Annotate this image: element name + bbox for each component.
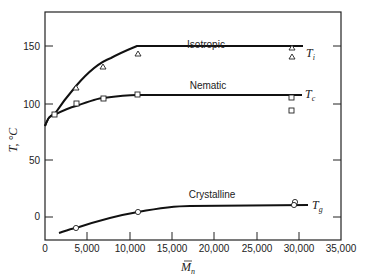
tg-curve — [59, 205, 308, 233]
tc-curve — [45, 95, 302, 126]
x-axis-title: Mn — [180, 260, 195, 276]
square-marker-icon — [135, 92, 140, 97]
isotropic-label: Isotropic — [187, 39, 225, 50]
y-tick-label: 150 — [23, 41, 40, 52]
x-tick-label: 5,000 — [74, 243, 99, 254]
nematic-label: Nematic — [190, 80, 227, 91]
y-tick-label: 0 — [34, 211, 40, 222]
crystalline-label: Crystalline — [189, 189, 236, 200]
square-marker-icon — [52, 112, 57, 117]
square-marker-icon — [289, 108, 294, 113]
x-tick-label: 25,000 — [242, 243, 273, 254]
x-tick-label: 20,000 — [199, 243, 230, 254]
x-tick-label: 0 — [42, 243, 48, 254]
triangle-marker-icon — [100, 64, 106, 69]
square-marker-icon — [101, 96, 106, 101]
tc-label: Tc — [305, 87, 316, 103]
x-tick-label: 15,000 — [157, 243, 188, 254]
y-axis-title: T, °C — [6, 127, 20, 153]
ti-markers — [73, 45, 295, 90]
circle-marker-icon — [291, 202, 296, 207]
tg-label: Tg — [312, 198, 323, 214]
x-ticks — [87, 232, 299, 240]
phase-diagram-chart: 0 50 100 150 0 5,000 10,000 15,000 20,00… — [0, 0, 368, 278]
x-tick-label: 10,000 — [115, 243, 146, 254]
square-marker-icon — [289, 95, 294, 100]
y-tick-label: 100 — [23, 99, 40, 110]
x-tick-label: 30,000 — [284, 243, 315, 254]
tg-markers — [73, 199, 297, 230]
ti-label: Ti — [306, 46, 315, 62]
y-tick-label: 50 — [29, 155, 41, 166]
ti-curve — [45, 46, 303, 126]
circle-marker-icon — [135, 209, 140, 214]
x-tick-label: 35,000 — [326, 243, 357, 254]
triangle-marker-icon — [135, 51, 141, 56]
triangle-marker-icon — [289, 54, 295, 59]
square-marker-icon — [74, 101, 79, 106]
circle-marker-icon — [73, 225, 78, 230]
